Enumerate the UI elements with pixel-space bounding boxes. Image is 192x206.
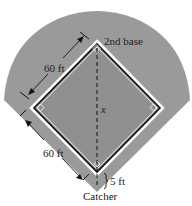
diagonal-label: x [101,104,106,115]
upper-side-length-label: 60 ft [44,63,64,74]
second-base-label: 2nd base [104,36,143,47]
baseball-diamond-diagram: 2nd base 60 ft x 60 ft 5 ft Catcher [0,0,192,206]
lower-side-length-label: 60 ft [43,148,63,159]
diagram-graphic [0,0,192,206]
catcher-label: Catcher [83,191,117,202]
offset-label: 5 ft [110,176,125,187]
